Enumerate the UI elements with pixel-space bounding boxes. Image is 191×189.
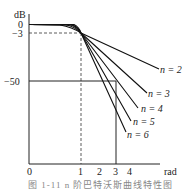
butterworth-response-chart: dB 0 −3 −50 0 1 2 3 4 rad n = 2 n = 3 n … (0, 0, 191, 189)
x-tick-2: 2 (97, 167, 102, 177)
legend-n5: n = 5 (133, 117, 155, 127)
y-tick-minus50: −50 (4, 77, 20, 87)
x-axis-unit: rad (164, 167, 177, 177)
legend-n4: n = 4 (141, 104, 163, 114)
figure-caption: 图 1-11 n 阶巴特沃斯曲线特性图 (28, 178, 173, 189)
legend-n3: n = 3 (148, 89, 170, 99)
y-tick-minus3: −3 (12, 29, 23, 39)
x-tick-1: 1 (78, 167, 83, 177)
x-tick-4: 4 (127, 167, 132, 177)
legend-n6: n = 6 (127, 130, 149, 140)
legend-n2: n = 2 (160, 65, 182, 75)
x-tick-0: 0 (27, 167, 32, 177)
x-tick-3: 3 (113, 167, 118, 177)
